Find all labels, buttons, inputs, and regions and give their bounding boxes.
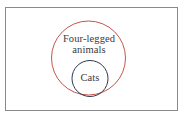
inner-set-label: Cats (60, 72, 120, 83)
euler-diagram-figure: Four-legged animals Cats (0, 0, 187, 119)
venn-circles-graphic (0, 0, 187, 119)
outer-set-label: Four-legged animals (44, 33, 134, 55)
